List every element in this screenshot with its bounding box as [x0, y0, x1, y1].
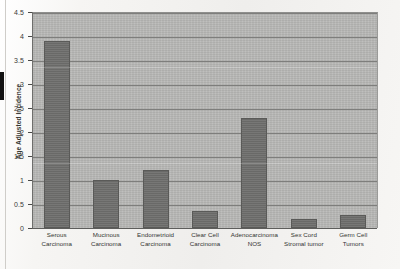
y-tick-mark: [28, 156, 32, 157]
gridline: [32, 157, 377, 158]
y-tick-label: 3.5: [14, 57, 24, 64]
y-axis-line: [32, 12, 33, 228]
y-tick-mark: [28, 108, 32, 109]
scan-streak: [32, 163, 377, 164]
bar-chart: 00.511.522.533.544.5 Age Adjusted Incide…: [0, 0, 400, 269]
bar: [93, 180, 119, 228]
x-tick-label: Mucinous Carcinoma: [81, 231, 130, 248]
x-tick-label: Endometrioid Carcinoma: [131, 231, 180, 248]
y-tick-mark: [28, 36, 32, 37]
gridline: [32, 109, 377, 110]
bar-texture: [341, 216, 365, 227]
gridline: [32, 37, 377, 38]
bar: [192, 211, 218, 228]
bar: [241, 118, 267, 228]
y-tick-mark: [28, 84, 32, 85]
x-tick-label: Sex Cord Stromal tumor: [279, 231, 328, 248]
scan-streak: [32, 67, 377, 68]
gridline: [32, 61, 377, 62]
bar-texture: [292, 220, 316, 227]
x-tick-label: Clear Cell Carcinoma: [180, 231, 229, 248]
gridline: [32, 181, 377, 182]
bar: [340, 215, 366, 228]
bar: [143, 170, 169, 228]
bar: [291, 219, 317, 228]
gridline: [32, 133, 377, 134]
y-tick-mark: [28, 60, 32, 61]
axis-baseline: [32, 228, 377, 229]
y-tick-mark: [28, 132, 32, 133]
y-tick-label: 0.5: [14, 201, 24, 208]
y-tick-label: 0: [20, 225, 24, 232]
bar-texture: [94, 181, 118, 227]
bar-texture: [242, 119, 266, 227]
y-axis-title: Age Adjusted Incidence: [15, 74, 22, 170]
x-tick-label: Serous Carcinoma: [32, 231, 81, 248]
y-tick-label: 4: [20, 33, 24, 40]
y-tick-label: 4.5: [14, 9, 24, 16]
gridline: [32, 13, 377, 14]
y-tick-label: 1: [20, 177, 24, 184]
bar-texture: [193, 212, 217, 227]
plot-area: [32, 12, 378, 228]
bar-texture: [45, 42, 69, 227]
y-tick-mark: [28, 12, 32, 13]
gridline: [32, 205, 377, 206]
gridline: [32, 85, 377, 86]
x-axis-category-labels: Serous CarcinomaMucinous CarcinomaEndome…: [32, 231, 378, 265]
y-tick-mark: [28, 228, 32, 229]
x-tick-label: Germ Cell Tumors: [329, 231, 378, 248]
y-tick-mark: [28, 180, 32, 181]
bar-texture: [144, 171, 168, 227]
scan-noise-overlay: [32, 13, 377, 228]
x-tick-label: Adenocarcinoma NOS: [230, 231, 279, 248]
y-tick-mark: [28, 204, 32, 205]
bar: [44, 41, 70, 228]
